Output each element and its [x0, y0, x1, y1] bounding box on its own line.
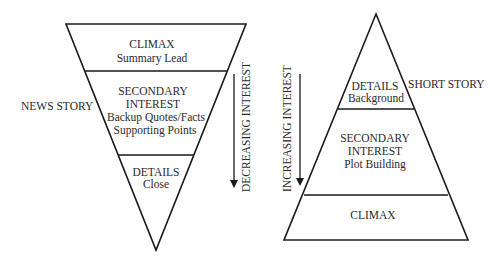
news-climax-heading: CLIMAX	[129, 38, 175, 50]
diagram-canvas: CLIMAX Summary Lead SECONDARY INTEREST B…	[0, 0, 504, 264]
news-secondary-heading-1: SECONDARY	[118, 85, 188, 97]
news-details-sub: Close	[143, 178, 169, 190]
increasing-interest-label: INCREASING INTEREST	[281, 65, 293, 192]
news-details-heading: DETAILS	[133, 166, 180, 178]
news-secondary-sub-2: Supporting Points	[114, 124, 197, 137]
short-climax-heading: CLIMAX	[350, 209, 396, 221]
decreasing-interest-label: DECREASING INTEREST	[240, 62, 252, 192]
news-story-title: NEWS STORY	[21, 100, 94, 112]
news-secondary-sub-1: Backup Quotes/Facts	[107, 111, 206, 124]
news-climax-sub: Summary Lead	[117, 52, 188, 65]
decreasing-arrow	[230, 74, 238, 188]
short-details-sub: Background	[348, 92, 404, 105]
short-story-title: SHORT STORY	[408, 78, 485, 90]
pyramid	[284, 14, 468, 240]
arrow-down-icon	[296, 178, 304, 186]
short-details-heading: DETAILS	[352, 80, 399, 92]
short-secondary-heading-1: SECONDARY	[340, 132, 410, 144]
arrow-down-icon	[230, 180, 238, 188]
news-secondary-heading-2: INTEREST	[126, 98, 180, 110]
short-secondary-sub: Plot Building	[344, 158, 406, 171]
short-secondary-heading-2: INTEREST	[348, 145, 402, 157]
increasing-arrow	[296, 74, 304, 186]
pyramid-outline	[284, 14, 468, 240]
